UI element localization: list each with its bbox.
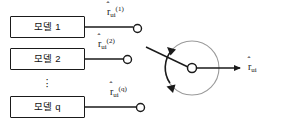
aggregator-input-line [146,47,188,67]
arc-arrowhead-bottom [167,85,176,94]
output-node-2 [124,56,132,64]
model-box-1[interactable]: 모델 1 [10,16,85,38]
output-label-2-sup: (2) [107,37,115,45]
output-label-2: ˆrui(2) [98,38,115,51]
output-label-1: ˆrui(1) [107,6,124,19]
final-output-label: ˆrui [248,62,257,74]
model-box-2[interactable]: 모델 2 [10,48,85,70]
hat-accent-icon-2: ˆ [98,33,101,42]
figure-diagram: 모델 1 모델 2 · · · 모델 q ˆrui(1) ˆrui(2) ˆru… [0,0,281,137]
model-box-q[interactable]: 모델 q [10,96,85,118]
r-hat-symbol-out: ˆr [248,62,251,72]
output-node-1 [134,25,142,33]
model-box-2-label: 모델 2 [34,54,61,64]
r-hat-symbol-2: ˆr [98,39,101,49]
hat-accent-icon-out: ˆ [248,56,251,65]
output-label-q: ˆrui(q) [110,86,127,99]
output-node-q [137,104,145,112]
hat-accent-icon-1: ˆ [107,1,110,10]
hat-accent-icon-q: ˆ [110,81,113,90]
final-output-sub: ui [251,66,256,74]
output-label-1-sup: (1) [116,5,124,13]
model-box-q-label: 모델 q [34,102,61,112]
sum-node [188,64,197,73]
ellipsis-dot-3: · [40,85,54,89]
r-hat-symbol-1: ˆr [107,7,110,17]
r-hat-symbol-q: ˆr [110,87,113,97]
model-box-1-label: 모델 1 [34,22,61,32]
output-label-q-sup: (q) [119,85,127,93]
vertical-ellipsis: · · · [40,78,54,89]
